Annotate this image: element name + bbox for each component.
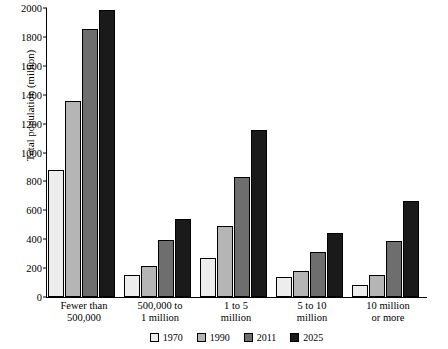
bar <box>310 252 326 297</box>
bar <box>352 285 368 297</box>
x-axis-label-line: 5 to 10 <box>274 300 350 312</box>
x-axis-label-line: million <box>274 312 350 324</box>
x-axis-label-line: 500,000 <box>46 312 122 324</box>
x-axis-label-line: 10 million <box>350 300 426 312</box>
x-axis-labels: Fewer than500,000500,000 to1 million1 to… <box>46 300 427 334</box>
x-axis-label-line: million <box>198 312 274 324</box>
bar <box>369 275 385 297</box>
legend-swatch-icon <box>150 333 159 342</box>
bar-group <box>123 8 199 297</box>
x-axis-label-line: 1 to 5 <box>198 300 274 312</box>
bar <box>99 10 115 297</box>
legend-item[interactable]: 2011 <box>244 332 277 343</box>
bar-group <box>199 8 275 297</box>
bar <box>200 258 216 297</box>
bar <box>65 101 81 297</box>
bar-group <box>47 8 123 297</box>
legend-item[interactable]: 1970 <box>150 332 183 343</box>
bar <box>158 240 174 297</box>
legend-label: 1970 <box>163 332 183 343</box>
x-axis-label: Fewer than500,000 <box>46 300 122 324</box>
x-axis-label-line: 1 million <box>122 312 198 324</box>
x-axis-label: 5 to 10million <box>274 300 350 324</box>
bar <box>141 266 157 297</box>
legend-swatch-icon <box>197 333 206 342</box>
bar <box>327 233 343 297</box>
bar <box>234 177 250 297</box>
bar <box>293 271 309 297</box>
bar-group <box>351 8 427 297</box>
bar <box>403 201 419 297</box>
bars-layer <box>47 8 427 297</box>
bar <box>124 275 140 297</box>
bar-chart: Total population (million) 0200400600800… <box>0 0 448 349</box>
bar <box>175 219 191 297</box>
x-axis-label-line: Fewer than <box>46 300 122 312</box>
bar <box>48 170 64 297</box>
x-axis-label: 500,000 to1 million <box>122 300 198 324</box>
x-axis-label-line: 500,000 to <box>122 300 198 312</box>
bar-group <box>275 8 351 297</box>
legend-swatch-icon <box>290 333 299 342</box>
legend-label: 1990 <box>210 332 230 343</box>
legend-item[interactable]: 2025 <box>290 332 323 343</box>
legend-swatch-icon <box>244 333 253 342</box>
x-axis-label: 10 millionor more <box>350 300 426 324</box>
legend-label: 2011 <box>257 332 277 343</box>
bar <box>217 226 233 297</box>
bar <box>386 241 402 297</box>
x-axis-label-line: or more <box>350 312 426 324</box>
plot-area: 0200400600800100012001400160018002000 <box>46 8 427 298</box>
legend-item[interactable]: 1990 <box>197 332 230 343</box>
y-axis-title: Total population (million) <box>25 16 36 196</box>
legend-label: 2025 <box>303 332 323 343</box>
bar <box>276 277 292 297</box>
bar <box>251 130 267 297</box>
bar <box>82 29 98 297</box>
chart-legend: 1970199020112025 <box>46 332 427 343</box>
x-axis-label: 1 to 5million <box>198 300 274 324</box>
